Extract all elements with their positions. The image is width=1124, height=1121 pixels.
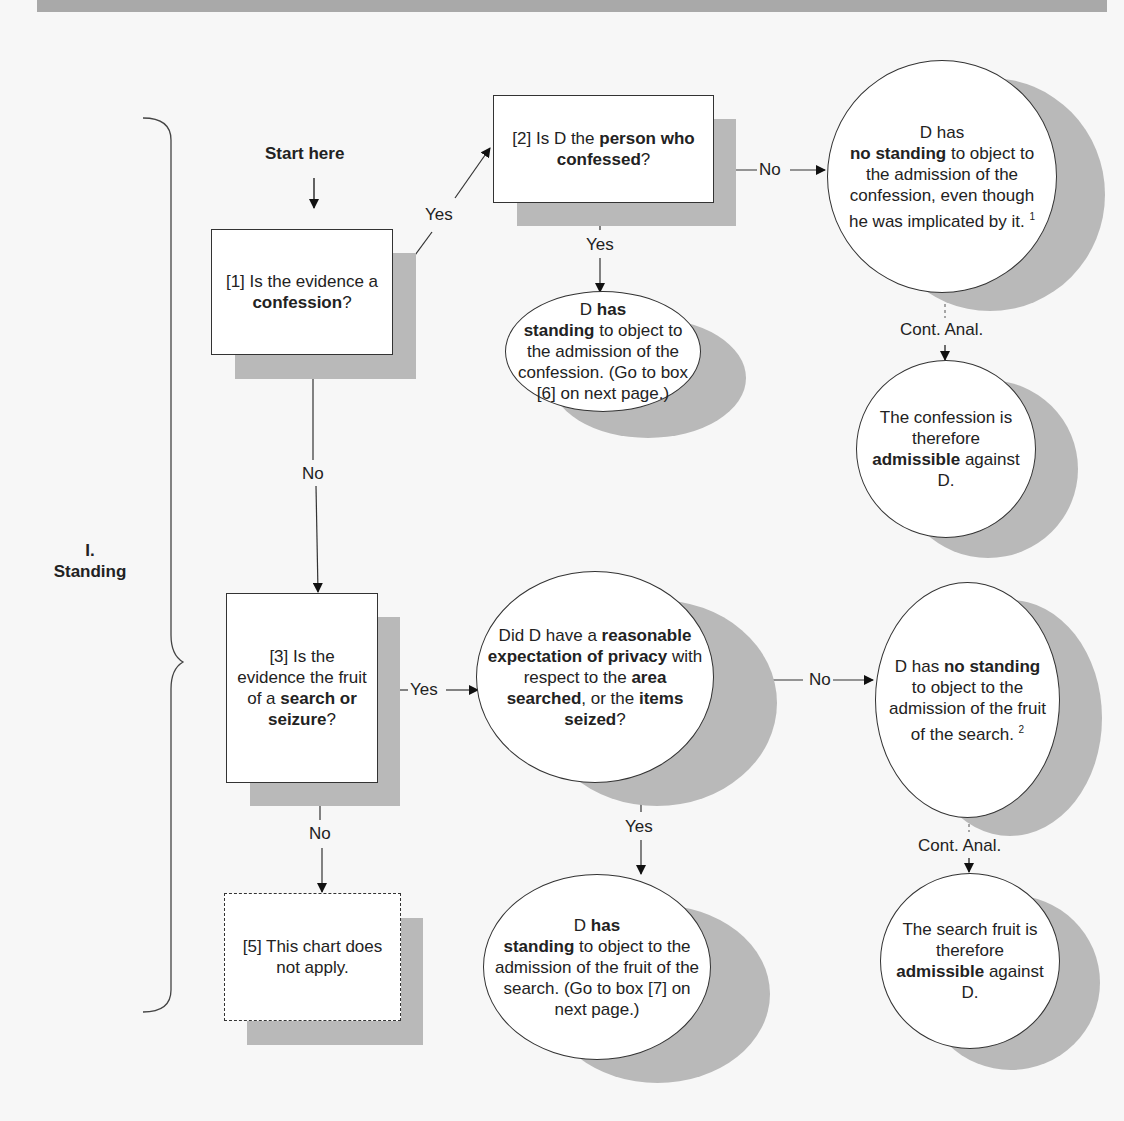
box-2-person-who-confessed[interactable]: [2] Is D the person who confessed? [493,95,714,203]
edge-label-no-4: No [307,824,333,844]
section-title: Standing [40,561,140,582]
edge-label-no-2: No [757,160,783,180]
box-5-chart-does-not-apply[interactable]: [5] This chart does not apply. [224,893,401,1021]
edge-label-yes-1: Yes [423,205,455,225]
no-standing-confession[interactable]: D has no standing to object to the admis… [827,60,1057,293]
has-standing-search[interactable]: D hasstanding to object to the admission… [483,874,711,1060]
section-label: I. Standing [40,540,140,582]
has-standing-confession[interactable]: D hasstanding to object to the admission… [505,291,701,412]
edge-label-yes-3: Yes [408,680,440,700]
privacy-question[interactable]: Did D have a reasonable expectation of p… [476,571,714,783]
edge-label-yes-4: Yes [623,817,655,837]
section-number: I. [40,540,140,561]
start-label: Start here [265,144,344,164]
box-1-confession[interactable]: [1] Is the evidence a confession? [211,229,393,355]
search-admissible[interactable]: The search fruit is therefore admissible… [880,873,1060,1049]
no-standing-search[interactable]: D has no standing to object to the admis… [875,582,1060,818]
box-3-search-or-seizure[interactable]: [3] Is the evidence the fruit of a searc… [226,593,378,783]
edge-label-no-1: No [300,464,326,484]
edge-label-no-3: No [807,670,833,690]
cont-anal-label-2: Cont. Anal. [916,836,1003,856]
cont-anal-label-1: Cont. Anal. [898,320,985,340]
confession-admissible[interactable]: The confession is therefore admissible a… [856,360,1036,538]
edge-label-yes-2: Yes [584,235,616,255]
